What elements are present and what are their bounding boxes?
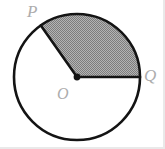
circle-diagram-svg	[0, 0, 165, 149]
vertex-label-q: Q	[144, 67, 156, 84]
bottom-edge-border	[0, 147, 165, 149]
vertex-label-o: O	[57, 86, 69, 102]
vertex-label-p: P	[27, 3, 37, 20]
center-dot	[74, 74, 81, 81]
right-edge-border	[163, 0, 165, 149]
circle-sector-figure: P Q O	[0, 0, 165, 149]
